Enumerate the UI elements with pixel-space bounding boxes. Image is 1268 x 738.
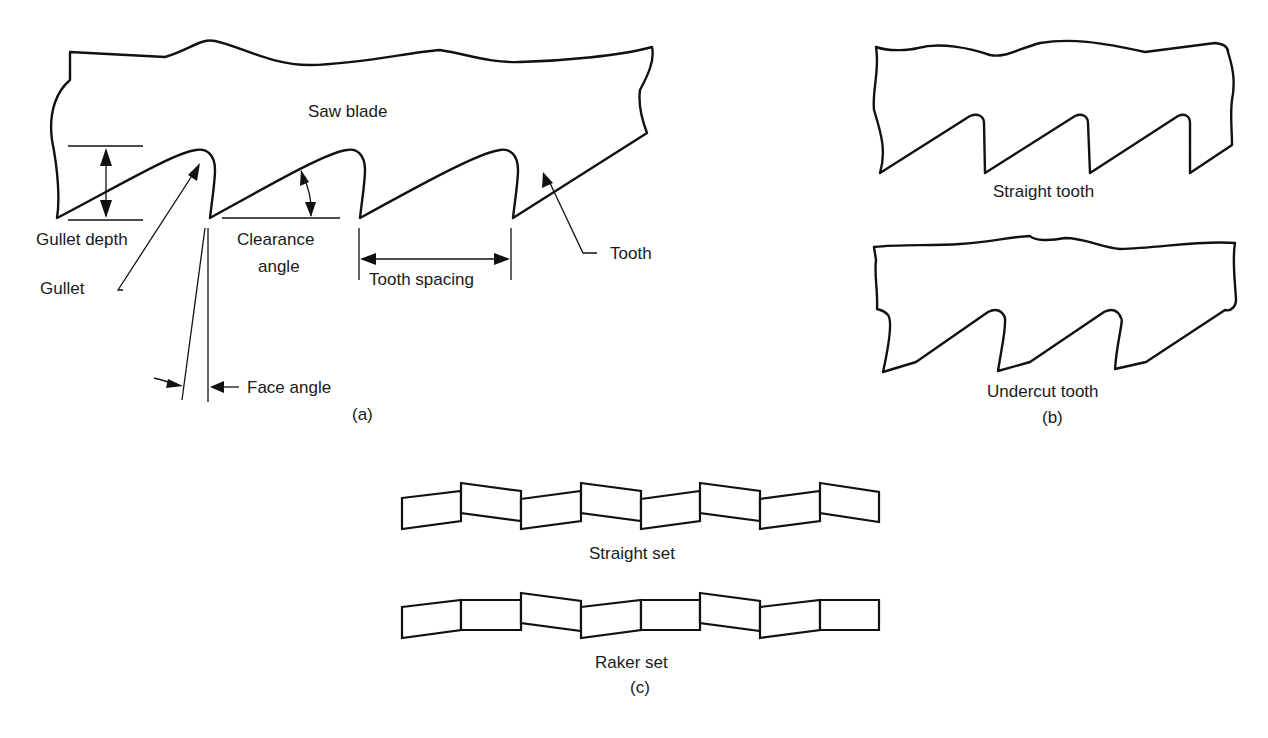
panel-b: Straight tooth Undercut tooth (b) [874, 41, 1236, 427]
tooth-spacing-label: Tooth spacing [369, 270, 474, 289]
face-angle-label: Face angle [247, 378, 331, 397]
set-tooth [581, 600, 641, 638]
arrow-down-icon [100, 200, 112, 218]
set-tooth [461, 600, 521, 630]
straight-tooth-label: Straight tooth [993, 182, 1094, 201]
set-tooth [700, 593, 760, 631]
arrow-right-icon [166, 379, 183, 388]
gullet-leader-line [118, 168, 197, 290]
saw-blade-outline [51, 41, 653, 218]
set-tooth [760, 600, 820, 638]
undercut-tooth-label: Undercut tooth [987, 382, 1099, 401]
raker-set-teeth [402, 593, 879, 638]
face-inclined-line [182, 228, 205, 400]
set-tooth [402, 600, 461, 638]
set-tooth [820, 600, 879, 630]
set-tooth [521, 491, 581, 529]
clearance-angle-label-line2: angle [258, 257, 300, 276]
straight-set-label: Straight set [589, 544, 675, 563]
undercut-tooth-blade-outline [874, 236, 1236, 372]
gullet-label: Gullet [40, 279, 85, 298]
arrow-icon [305, 202, 316, 217]
set-tooth [521, 593, 581, 631]
set-tooth [641, 491, 700, 529]
arrow-icon [300, 170, 309, 186]
set-tooth [820, 483, 879, 522]
arrow-left-icon [360, 253, 376, 265]
set-tooth [461, 483, 521, 521]
arrow-right-icon [494, 253, 510, 265]
set-tooth [581, 483, 641, 521]
panel-a-caption: (a) [352, 405, 373, 424]
saw-blade-label: Saw blade [308, 102, 387, 121]
tooth-label: Tooth [610, 244, 652, 263]
saw-blade-diagram: Saw blade Gullet depth Gullet Clearance … [0, 0, 1268, 738]
arrow-left-icon [210, 381, 224, 393]
straight-tooth-blade-outline [874, 41, 1234, 173]
panel-c-caption: (c) [630, 678, 650, 697]
panel-c: Straight set Raker set (c) [402, 483, 879, 697]
set-tooth [402, 491, 461, 529]
set-tooth [641, 600, 700, 630]
panel-b-caption: (b) [1042, 408, 1063, 427]
arrow-up-icon [100, 148, 112, 166]
raker-set-label: Raker set [595, 653, 668, 672]
panel-a: Saw blade Gullet depth Gullet Clearance … [36, 41, 653, 424]
set-tooth [700, 483, 760, 521]
clearance-angle-label-line1: Clearance [237, 230, 315, 249]
gullet-depth-label: Gullet depth [36, 230, 128, 249]
set-tooth [760, 491, 820, 529]
straight-set-teeth [402, 483, 879, 529]
